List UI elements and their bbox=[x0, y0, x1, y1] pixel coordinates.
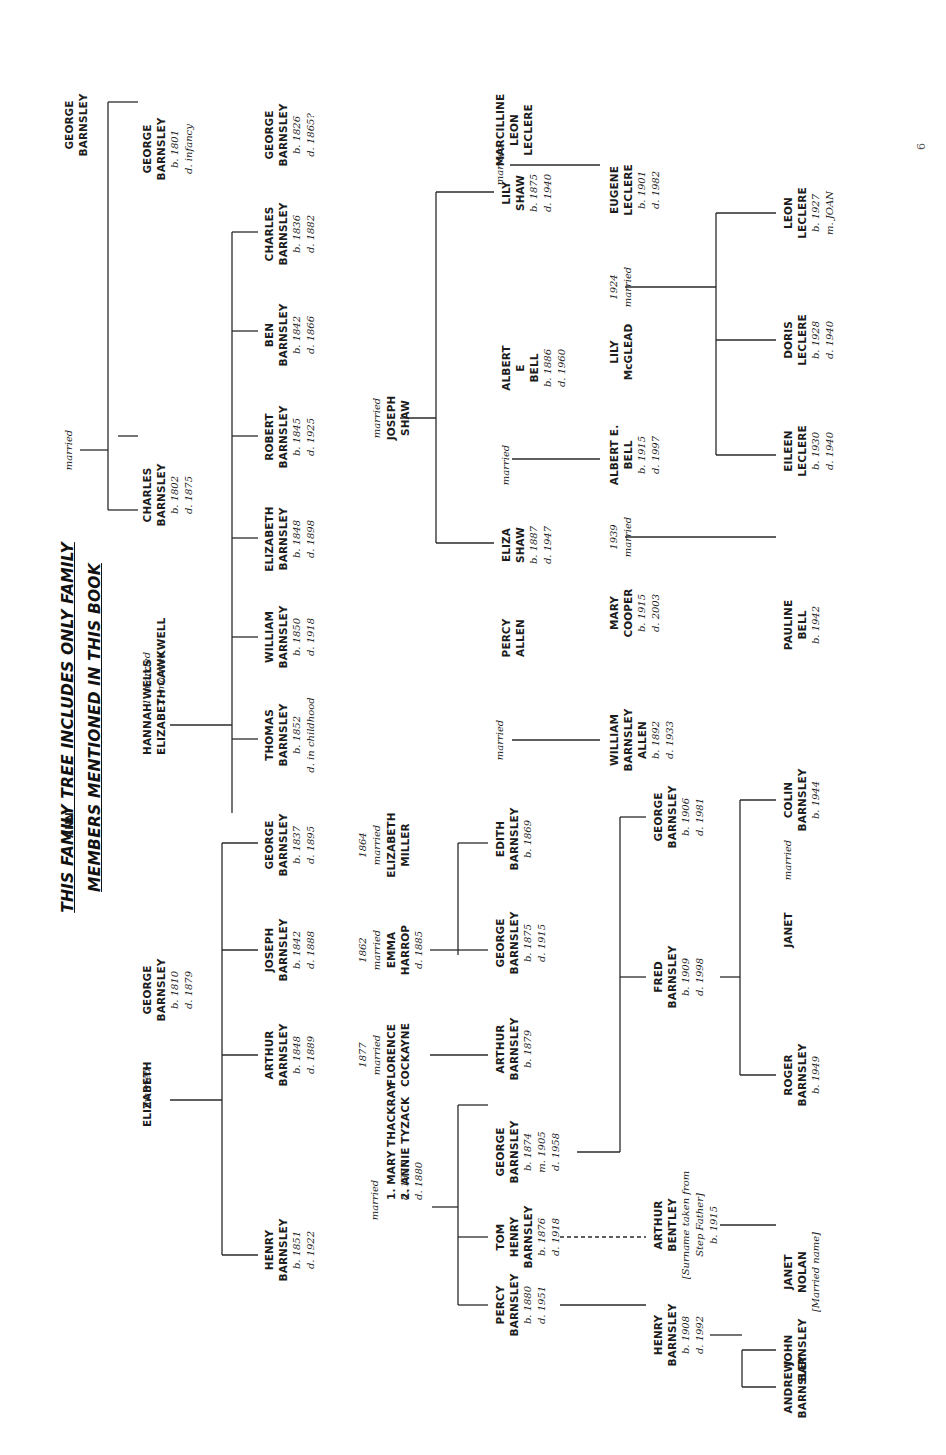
person-george-1801: GEORGEBARNSLEYb. 1801d. infancy bbox=[140, 118, 196, 181]
person-date: d. 1922 bbox=[304, 1219, 318, 1282]
person-name-line: LECLERE bbox=[521, 94, 535, 167]
person-date: b. 1909 bbox=[679, 946, 693, 1009]
person-charles-1836: CHARLESBARNSLEYb. 1836d. 1882 bbox=[262, 203, 318, 266]
marriage-label-albert-mary: 1939married bbox=[607, 517, 635, 558]
person-george-sr: GEORGEBARNSLEY bbox=[62, 94, 90, 157]
person-name-line: BARNSLEY bbox=[276, 814, 290, 877]
marriage-label-line: 1924 bbox=[607, 267, 621, 308]
person-date: d. 1879 bbox=[182, 959, 196, 1022]
person-name-line: BARNSLEY bbox=[621, 709, 635, 772]
marriage-label-line: 1. married bbox=[140, 652, 154, 705]
person-lily-shaw: LILYSHAWb. 1875d. 1940 bbox=[499, 174, 555, 212]
person-pauline-bell: PAULINEBELLb. 1942 bbox=[781, 600, 823, 650]
person-date: [Married name] bbox=[809, 1232, 823, 1312]
person-name-line: COLIN bbox=[781, 769, 795, 832]
person-date: b. 1850 bbox=[290, 606, 304, 669]
marriage-label-arthur-cockayne: 1877married bbox=[356, 1035, 384, 1076]
person-name-line: GEORGE bbox=[140, 118, 154, 181]
person-name-line: FRED bbox=[651, 946, 665, 1009]
person-name-line: GEORGE bbox=[651, 786, 665, 849]
person-name-line: TOM bbox=[493, 1206, 507, 1269]
person-name-line: THOMAS bbox=[262, 697, 276, 772]
person-joseph-shaw: JOSEPHSHAW bbox=[384, 396, 412, 441]
person-name-line: BARNSLEY bbox=[154, 464, 168, 527]
person-date: d. 1895 bbox=[304, 814, 318, 877]
person-date: b. 1869 bbox=[521, 808, 535, 871]
person-name-line: PERCY bbox=[493, 1274, 507, 1337]
person-date: b. 1875 bbox=[521, 912, 535, 975]
person-name-line: EDITH bbox=[493, 808, 507, 871]
person-george-1874: GEORGEBARNSLEYb. 1874m. 1905d. 1958 bbox=[493, 1121, 563, 1184]
person-date: b. 1880 bbox=[521, 1274, 535, 1337]
person-elizabeth-miller: ELIZABETHMILLER bbox=[384, 812, 412, 878]
person-leon-leclere: LEONLECLEREb. 1927m. JOAN bbox=[781, 187, 837, 238]
person-date: b. 1887 bbox=[527, 526, 541, 564]
person-date: d. 1875 bbox=[182, 464, 196, 527]
person-date: d. 1888 bbox=[304, 919, 318, 982]
marriage-label-henry-wives: married bbox=[368, 1180, 382, 1221]
person-william-allen: WILLIAMBARNSLEYALLENb. 1892d. 1933 bbox=[607, 709, 677, 772]
person-name-line: BARNSLEY bbox=[276, 697, 290, 772]
person-name-line: BARNSLEY bbox=[276, 304, 290, 367]
person-name-line: BARNSLEY bbox=[507, 808, 521, 871]
person-name-line: BARNSLEY bbox=[76, 94, 90, 157]
person-name-line: BELL bbox=[795, 600, 809, 650]
person-date: d. 1866 bbox=[304, 304, 318, 367]
person-date: d. 1998 bbox=[693, 946, 707, 1009]
person-name-line: CHARLES bbox=[262, 203, 276, 266]
person-date: d. 1918 bbox=[304, 606, 318, 669]
person-date: b. 1875 bbox=[527, 174, 541, 212]
person-date: d. 1918 bbox=[549, 1206, 563, 1269]
person-date: b. 1852 bbox=[290, 697, 304, 772]
person-date: d. 1933 bbox=[663, 709, 677, 772]
marriage-label-line: 1877 bbox=[356, 1035, 370, 1076]
marriage-label-line: 1939 bbox=[607, 517, 621, 558]
marriage-label-line: married bbox=[370, 1035, 384, 1076]
person-doris-leclere: DORISLECLEREb. 1928d. 1940 bbox=[781, 314, 837, 365]
person-name-line: LECLERE bbox=[621, 164, 635, 215]
person-date: d. 1880 bbox=[412, 1097, 426, 1200]
person-name-line: SHAW bbox=[513, 174, 527, 212]
person-name-line: BARNSLEY bbox=[276, 506, 290, 572]
person-george-1906: GEORGEBARNSLEYb. 1906d. 1981 bbox=[651, 786, 707, 849]
person-florence-cockayne: FLORENCECOCKAYNE bbox=[384, 1023, 412, 1087]
person-charles-1802: CHARLESBARNSLEYb. 1802d. 1875 bbox=[140, 464, 196, 527]
person-date: b. 1837 bbox=[290, 814, 304, 877]
person-emma-harrop: EMMAHARROPd. 1885 bbox=[384, 925, 426, 975]
person-eliza-shaw: ELIZASHAWb. 1887d. 1947 bbox=[499, 526, 555, 564]
person-name-line: BARNSLEY bbox=[795, 769, 809, 832]
person-name-line: EILEEN bbox=[781, 425, 795, 476]
person-date: b. 1874 bbox=[521, 1121, 535, 1184]
marriage-label-joseph-harrop: 1862married bbox=[356, 930, 384, 971]
person-ann: ANN bbox=[62, 812, 76, 838]
person-name-line: ANDREW bbox=[781, 1356, 795, 1419]
marriage-label-line: married bbox=[370, 825, 384, 866]
person-name-line: BARNSLEY bbox=[507, 1121, 521, 1184]
person-name-line: ARTHUR bbox=[651, 1171, 665, 1280]
person-name-line: HENRY bbox=[651, 1304, 665, 1367]
person-name-line: LECLERE bbox=[795, 314, 809, 365]
person-name-line: JOSEPH bbox=[262, 919, 276, 982]
person-date: d. 1882 bbox=[304, 203, 318, 266]
person-date: b. 1906 bbox=[679, 786, 693, 849]
person-name-line: NOLAN bbox=[795, 1232, 809, 1312]
person-name-line: ANN bbox=[62, 812, 76, 838]
person-george-1810: GEORGEBARNSLEYb. 1810d. 1879 bbox=[140, 959, 196, 1022]
person-date: d. 1951 bbox=[535, 1274, 549, 1337]
marriage-label-eugene-lily: 1924married bbox=[607, 267, 635, 308]
person-name-line: ELIZA bbox=[499, 526, 513, 564]
person-name-line: BARNSLEY bbox=[507, 1274, 521, 1337]
person-date: b. 1886 bbox=[541, 345, 555, 390]
person-name-line: BARNSLEY bbox=[276, 104, 290, 167]
person-date: d. 2003 bbox=[649, 588, 663, 637]
marriage-label-line: married bbox=[368, 1180, 382, 1221]
person-date: b. 1944 bbox=[809, 769, 823, 832]
marriage-label-albert-eliza: married bbox=[499, 445, 513, 486]
person-name-line: FLORENCE bbox=[384, 1023, 398, 1087]
person-date: b. 1879 bbox=[521, 1018, 535, 1081]
person-date: b. 1901 bbox=[635, 164, 649, 215]
marriage-label-george-ann: married bbox=[62, 430, 76, 471]
person-name-line: ELIZABETH bbox=[262, 506, 276, 572]
person-date: b. 1915 bbox=[635, 588, 649, 637]
person-percy-allen: PERCYALLEN bbox=[499, 619, 527, 658]
